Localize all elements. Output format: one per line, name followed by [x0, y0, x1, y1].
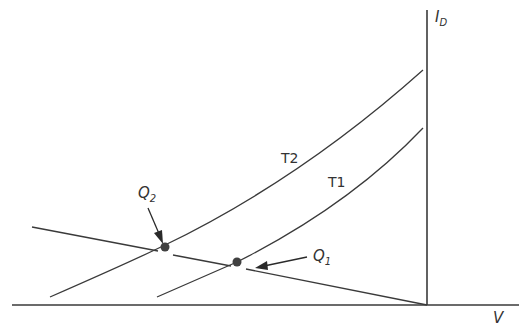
curve-t1-label: T1 [328, 175, 345, 189]
load-line-seg-2 [173, 255, 231, 266]
q2-label-main: Q [138, 184, 150, 202]
q1-label: Q1 [313, 249, 331, 267]
diagram-canvas [0, 0, 519, 325]
y-axis-label: ID [435, 10, 447, 28]
q1-label-main: Q [313, 247, 325, 265]
q2-arrow-head [154, 230, 163, 244]
load-line-seg-1 [32, 227, 158, 251]
q1-arrow-shaft [264, 257, 307, 266]
q1-arrow-head [255, 261, 268, 270]
x-axis-label-main: V [493, 309, 503, 325]
q2-label: Q2 [138, 186, 156, 204]
x-axis-label: V [493, 311, 503, 325]
q2-point [161, 243, 170, 252]
y-axis-label-sub: D [439, 17, 447, 28]
q2-label-sub: 2 [150, 193, 156, 204]
curve-t2-label: T2 [281, 151, 298, 165]
q1-label-sub: 1 [325, 256, 331, 267]
q1-point [233, 258, 242, 267]
load-line-seg-3 [246, 269, 427, 305]
